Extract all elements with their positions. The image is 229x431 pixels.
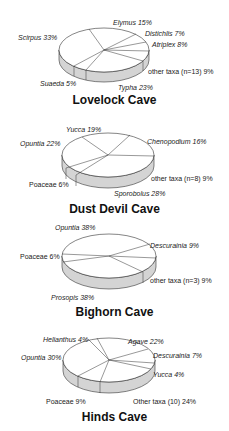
label-opuntia: Opuntia 22% bbox=[20, 140, 60, 148]
label-opuntia: Opuntia 38% bbox=[55, 224, 95, 232]
pie-panel-dustdevil: Yucca 19% Chenopodium 16% other taxa (n=… bbox=[0, 110, 229, 210]
label-prosopis: Prosopis 38% bbox=[51, 294, 94, 302]
label-elymus: Elymus 15% bbox=[113, 19, 152, 27]
label-agave: Agave 22% bbox=[128, 338, 164, 346]
label-other-taxa: other taxa (n=13) 9% bbox=[148, 68, 214, 76]
label-poaceae: Poaceae 6% bbox=[20, 253, 60, 261]
label-other-taxa: other taxa (n=8) 9% bbox=[151, 175, 213, 183]
label-sporobolus: Sporobolus 28% bbox=[114, 190, 165, 198]
label-other-taxa: Other taxa (10) 24% bbox=[133, 398, 196, 406]
label-suaeda: Suaeda 5% bbox=[40, 80, 76, 88]
label-descurainia: Descurainia 9% bbox=[150, 242, 199, 250]
pie-panel-hinds: Helianthus 4% Agave 22% Descurainia 7% Y… bbox=[0, 310, 229, 431]
label-distichlis: Distichlis 7% bbox=[145, 30, 185, 38]
label-typha: Typha 23% bbox=[118, 84, 153, 92]
chart-title-lovelock: Lovelock Cave bbox=[0, 93, 229, 107]
chart-title-hinds: Hinds Cave bbox=[0, 410, 229, 424]
label-atriplex: Atriplex 8% bbox=[152, 41, 187, 49]
label-yucca: Yucca 4% bbox=[153, 371, 184, 379]
label-yucca: Yucca 19% bbox=[66, 126, 101, 134]
label-opuntia: Opuntia 30% bbox=[21, 354, 61, 362]
label-poaceae: Poaceae 6% bbox=[29, 181, 69, 189]
label-helianthus: Helianthus 4% bbox=[43, 336, 88, 344]
pie-panel-bighorn: Opuntia 38% Descurainia 9% other taxa (n… bbox=[0, 210, 229, 310]
label-other-taxa: other taxa (n=3) 9% bbox=[150, 277, 212, 285]
pie-panel-lovelock: Scirpus 33% Elymus 15% Distichlis 7% Atr… bbox=[0, 0, 229, 110]
label-descurainia: Descurainia 7% bbox=[153, 352, 202, 360]
label-chenopodium: Chenopodium 16% bbox=[147, 138, 207, 146]
label-poaceae: Poaceae 9% bbox=[46, 398, 86, 406]
label-scirpus: Scirpus 33% bbox=[18, 34, 57, 42]
